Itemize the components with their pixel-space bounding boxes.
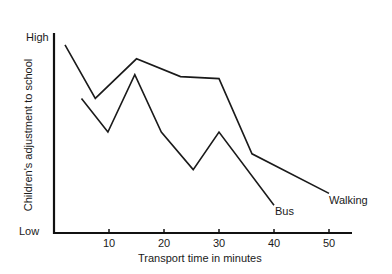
bus-series-label: Bus [275,206,294,217]
y-low-label: Low [19,226,39,237]
x-tick-label: 40 [268,238,280,249]
x-tick-label: 50 [323,238,335,249]
y-high-label: High [26,32,49,43]
x-tick-label: 20 [158,238,170,249]
chart-canvas [0,0,392,274]
x-tick-label: 30 [213,238,225,249]
y-axis-title: Children's adjustment to school [23,59,34,212]
walking-line [65,45,329,194]
x-tick-label: 10 [103,238,115,249]
walking-series-label: Walking [329,195,368,206]
x-axis-title: Transport time in minutes [138,253,262,264]
